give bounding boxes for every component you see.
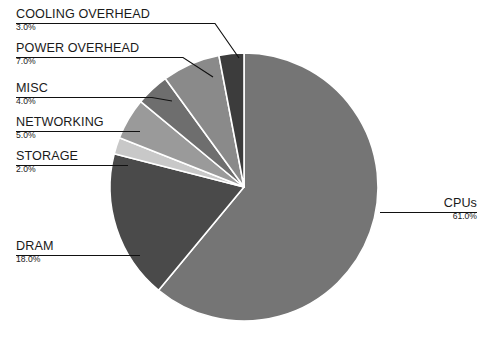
callout-cpus: CPUs 61.0% bbox=[410, 197, 477, 222]
callout-label-dram: DRAM bbox=[16, 240, 53, 253]
callout-label-networking: NETWORKING bbox=[16, 116, 104, 129]
callout-storage: STORAGE 2.0% bbox=[16, 150, 78, 175]
callout-dram: DRAM 18.0% bbox=[16, 240, 53, 265]
callout-label-storage: STORAGE bbox=[16, 150, 78, 163]
pie-chart-figure: COOLING OVERHEAD 3.0% POWER OVERHEAD 7.0… bbox=[0, 0, 493, 339]
callout-label-cooling-overhead: COOLING OVERHEAD bbox=[16, 8, 150, 21]
callout-value-dram: 18.0% bbox=[16, 253, 53, 265]
pie-slice-group bbox=[110, 53, 378, 321]
callout-label-cpus: CPUs bbox=[410, 197, 477, 210]
callout-misc: MISC 4.0% bbox=[16, 82, 48, 107]
callout-value-misc: 4.0% bbox=[16, 95, 48, 107]
callout-value-cpus: 61.0% bbox=[410, 210, 477, 222]
callout-value-power-overhead: 7.0% bbox=[16, 55, 139, 67]
callout-label-power-overhead: POWER OVERHEAD bbox=[16, 42, 139, 55]
callout-label-misc: MISC bbox=[16, 82, 48, 95]
callout-power-overhead: POWER OVERHEAD 7.0% bbox=[16, 42, 139, 67]
callout-value-cooling-overhead: 3.0% bbox=[16, 21, 150, 33]
callout-cooling-overhead: COOLING OVERHEAD 3.0% bbox=[16, 8, 150, 33]
callout-networking: NETWORKING 5.0% bbox=[16, 116, 104, 141]
callout-value-networking: 5.0% bbox=[16, 129, 104, 141]
callout-value-storage: 2.0% bbox=[16, 163, 78, 175]
